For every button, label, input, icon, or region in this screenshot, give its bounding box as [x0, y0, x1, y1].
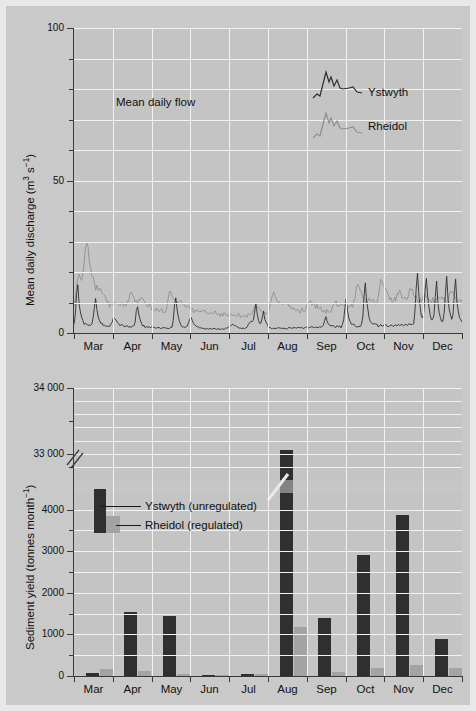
flow-y-tick-label: 100 [26, 23, 64, 33]
flow-y-tick [67, 28, 73, 29]
sediment-y-tick-label: 0 [8, 671, 64, 681]
sediment-y-tick [67, 676, 73, 677]
sediment-gridline-v [346, 388, 347, 676]
flow-x-tick [268, 334, 269, 339]
flow-month-label-may: May [152, 340, 191, 352]
flow-month-label-apr: Apr [113, 340, 152, 352]
sediment-y-tick [67, 634, 73, 635]
sediment-y-tick [67, 593, 73, 594]
flow-gridline-v [307, 28, 308, 333]
sediment-bar-ystwyth-sep [318, 618, 331, 676]
sediment-month-label-jun: Jun [190, 683, 229, 695]
sediment-x-tick [384, 677, 385, 682]
sediment-month-label-sep: Sep [307, 683, 346, 695]
flow-month-label-nov: Nov [384, 340, 423, 352]
flow-gridline-v [113, 28, 114, 333]
flow-y-axis-title-prefix: Mean daily discharge (m [24, 181, 36, 306]
sediment-month-label-aug: Aug [268, 683, 307, 695]
flow-x-tick [423, 334, 424, 339]
sediment-month-label-jul: Jul [229, 683, 268, 695]
legend-curve-rheidol [313, 113, 362, 138]
flow-legend-label-ystwyth: Ystwyth [368, 86, 408, 98]
flow-y-tick-label: 50 [26, 176, 64, 186]
flow-x-tick [384, 334, 385, 339]
sediment-gridline-v [152, 388, 153, 676]
flow-y-tick [69, 272, 73, 273]
flow-gridline-v [190, 28, 191, 333]
sediment-y-tick-label: 4000 [8, 505, 64, 515]
flow-x-tick [462, 334, 463, 339]
sediment-y-axis-break-icon [64, 446, 86, 472]
sediment-y-axis-title-sup: −1 [22, 488, 31, 497]
flow-y-tick [69, 303, 73, 304]
flow-y-tick [69, 242, 73, 243]
sediment-gridline-v [268, 388, 269, 676]
sediment-x-tick [152, 677, 153, 682]
sediment-y-tick-minor [69, 467, 73, 468]
sediment-month-label-dec: Dec [423, 683, 462, 695]
sediment-bar-ystwyth-oct [357, 555, 370, 676]
sediment-y-tick [67, 454, 73, 455]
sediment-legend-label-rheidol: Rheidol (regulated) [145, 519, 243, 531]
sediment-month-label-nov: Nov [384, 683, 423, 695]
sediment-bar-rheidol-dec [449, 668, 462, 676]
sediment-x-tick [74, 677, 75, 682]
sediment-x-tick [229, 677, 230, 682]
sediment-plot-area [74, 388, 462, 676]
sediment-gridline-v [229, 388, 230, 676]
flow-annotation: Mean daily flow [116, 96, 195, 108]
sediment-bar-ystwyth-apr [124, 612, 137, 676]
sediment-y-tick [67, 510, 73, 511]
flow-panel: Mean daily discharge (m3 s−1) 050100 Mar… [6, 6, 476, 358]
flow-x-tick [190, 334, 191, 339]
sediment-y-tick-minor [69, 572, 73, 573]
flow-x-tick [74, 334, 75, 339]
sediment-month-label-mar: Mar [74, 683, 113, 695]
sediment-gridline-v [307, 388, 308, 676]
sediment-bar-ystwyth-may [163, 616, 176, 676]
sediment-gridline-v [423, 388, 424, 676]
figure-container: Mean daily discharge (m3 s−1) 050100 Mar… [0, 0, 476, 711]
sediment-bar-rheidol-mar [100, 669, 113, 676]
flow-x-tick [152, 334, 153, 339]
sediment-legend-swatch-ystwyth [94, 489, 106, 533]
flow-y-tick [69, 59, 73, 60]
sediment-panel: Sediment yield (tonnes month−1) 34 00033… [6, 358, 476, 711]
sediment-legend-leader-ystwyth [101, 506, 141, 507]
flow-x-tick [113, 334, 114, 339]
sediment-y-tick-label: 1000 [8, 629, 64, 639]
flow-y-tick [69, 150, 73, 151]
flow-y-tick [67, 181, 73, 182]
flow-gridline-v [229, 28, 230, 333]
flow-month-label-jun: Jun [190, 340, 229, 352]
sediment-y-tick-label: 2000 [8, 588, 64, 598]
sediment-bar-rheidol-oct [371, 668, 384, 676]
flow-y-tick [69, 120, 73, 121]
sediment-month-label-apr: Apr [113, 683, 152, 695]
sediment-x-tick [462, 677, 463, 682]
sediment-bar-rheidol-nov [410, 665, 423, 676]
sediment-y-tick-label: 34 000 [8, 383, 64, 393]
sediment-x-tick [346, 677, 347, 682]
flow-month-label-jul: Jul [229, 340, 268, 352]
legend-curve-ystwyth [313, 72, 362, 98]
flow-gridline-v [423, 28, 424, 333]
flow-y-tick [67, 333, 73, 334]
sediment-y-tick-minor [69, 421, 73, 422]
flow-legend-label-rheidol: Rheidol [368, 120, 407, 132]
sediment-legend-label-ystwyth: Ystwyth (unregulated) [145, 500, 257, 512]
sediment-y-axis-title-suffix: ) [24, 485, 36, 489]
sediment-bar-ystwyth-dec [435, 639, 448, 676]
flow-x-tick [307, 334, 308, 339]
flow-month-label-mar: Mar [74, 340, 113, 352]
sediment-x-tick [113, 677, 114, 682]
flow-month-label-sep: Sep [307, 340, 346, 352]
sediment-y-tick-minor [69, 655, 73, 656]
sediment-x-tick [307, 677, 308, 682]
flow-y-tick [69, 211, 73, 212]
sediment-y-axis-title-prefix: Sediment yield (tonnes month [24, 498, 36, 650]
sediment-gridline-v [384, 388, 385, 676]
flow-y-axis-line [73, 28, 74, 334]
flow-month-label-oct: Oct [346, 340, 385, 352]
sediment-y-tick [67, 551, 73, 552]
